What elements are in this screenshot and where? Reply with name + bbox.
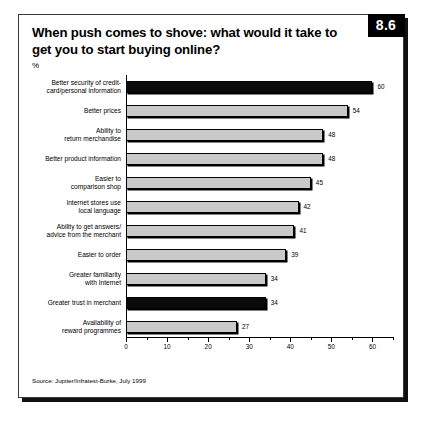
bar-track: 34 <box>126 267 393 291</box>
x-axis-major-tick <box>372 337 373 342</box>
bar-row: Greater trust in merchant34 <box>32 291 393 315</box>
bar-row: Better product information48 <box>32 147 393 171</box>
bar-value-label: 41 <box>299 226 306 236</box>
bar-track: 54 <box>126 99 393 123</box>
bar-value-label: 48 <box>328 154 335 164</box>
x-axis-major-tick <box>249 337 250 342</box>
bar-track: 41 <box>126 219 393 243</box>
bar-row: Internet stores use local language42 <box>32 195 393 219</box>
bar-value-label: 34 <box>271 298 278 308</box>
bar <box>126 153 323 165</box>
bar-category-label: Better product information <box>32 155 126 163</box>
bar-row: Availability of reward programmes27 <box>32 315 393 339</box>
bar-track: 48 <box>126 147 393 171</box>
x-axis: 0102030405060 <box>126 337 393 357</box>
bar-row: Easier to order39 <box>32 243 393 267</box>
bar-track: 27 <box>126 315 393 339</box>
x-axis-major-tick <box>167 337 168 342</box>
title-block: When push comes to shove: what would it … <box>32 25 352 70</box>
bar <box>126 273 266 285</box>
bar <box>126 105 348 117</box>
x-axis-minor-tick <box>229 337 230 340</box>
bar-track: 45 <box>126 171 393 195</box>
bar-track: 39 <box>126 243 393 267</box>
bar-category-label: Ability to return merchandise <box>32 127 126 142</box>
source-note: Source: Jupiter/Infratest-Burke, July 19… <box>32 377 146 385</box>
x-axis-tick-label: 30 <box>246 343 253 351</box>
bar <box>126 201 299 213</box>
x-axis-tick-label: 10 <box>164 343 171 351</box>
bar <box>126 177 311 189</box>
x-axis-major-tick <box>290 337 291 342</box>
bar-value-label: 60 <box>377 82 384 92</box>
bar-category-label: Ability to get answers/ advice from the … <box>32 223 126 238</box>
bar <box>126 297 266 309</box>
bar <box>126 249 286 261</box>
x-axis-major-tick <box>331 337 332 342</box>
x-axis-minor-tick <box>147 337 148 340</box>
bar-row: Better security of credit- card/personal… <box>32 75 393 99</box>
figure-card: 8.6 When push comes to shove: what would… <box>18 14 404 398</box>
bar-row: Ability to return merchandise48 <box>32 123 393 147</box>
x-axis-minor-tick <box>270 337 271 340</box>
x-axis-minor-tick <box>188 337 189 340</box>
bar-row: Ability to get answers/ advice from the … <box>32 219 393 243</box>
bar-track: 48 <box>126 123 393 147</box>
page-title: When push comes to shove: what would it … <box>32 25 352 58</box>
bar-category-label: Greater familiarity with Internet <box>32 271 126 286</box>
bar-category-label: Easier to order <box>32 251 126 259</box>
x-axis-minor-tick <box>352 337 353 340</box>
figure-number-badge: 8.6 <box>368 14 405 37</box>
bar <box>126 321 237 333</box>
x-axis-tick-label: 50 <box>328 343 335 351</box>
screenshot-root: 8.6 When push comes to shove: what would… <box>0 0 423 421</box>
bar-value-label: 27 <box>242 322 249 332</box>
bar <box>126 81 372 93</box>
x-axis-line <box>126 337 393 338</box>
x-axis-major-tick <box>208 337 209 342</box>
bar-rows: Better security of credit- card/personal… <box>32 75 393 339</box>
x-axis-major-tick <box>126 337 127 342</box>
unit-label: % <box>32 61 352 70</box>
bar-category-label: Better prices <box>32 107 126 115</box>
x-axis-tick-label: 40 <box>287 343 294 351</box>
bar-row: Easier to comparison shop45 <box>32 171 393 195</box>
bar-value-label: 48 <box>328 130 335 140</box>
bar-category-label: Easier to comparison shop <box>32 175 126 190</box>
bar-track: 42 <box>126 195 393 219</box>
x-axis-minor-tick <box>393 337 394 340</box>
bar-category-label: Greater trust in merchant <box>32 299 126 307</box>
bar-track: 60 <box>126 75 393 99</box>
bar-value-label: 34 <box>271 274 278 284</box>
chart-plot-area: Better security of credit- card/personal… <box>32 75 393 357</box>
bar-category-label: Better security of credit- card/personal… <box>32 79 126 94</box>
bar-category-label: Internet stores use local language <box>32 199 126 214</box>
bar-value-label: 54 <box>353 106 360 116</box>
bar <box>126 225 294 237</box>
bar-category-label: Availability of reward programmes <box>32 319 126 334</box>
x-axis-tick-label: 20 <box>205 343 212 351</box>
bar <box>126 129 323 141</box>
x-axis-tick-label: 0 <box>124 343 128 351</box>
bar-row: Greater familiarity with Internet34 <box>32 267 393 291</box>
bar-track: 34 <box>126 291 393 315</box>
bar-value-label: 39 <box>291 250 298 260</box>
x-axis-tick-label: 60 <box>369 343 376 351</box>
bar-value-label: 45 <box>316 178 323 188</box>
x-axis-minor-tick <box>311 337 312 340</box>
bar-value-label: 42 <box>304 202 311 212</box>
bar-row: Better prices54 <box>32 99 393 123</box>
